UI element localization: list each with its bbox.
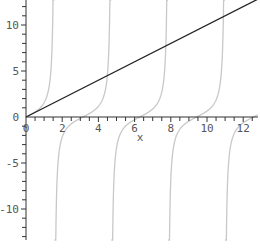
x-tick-label: 0: [23, 122, 30, 135]
x-tick-label: 2: [59, 122, 66, 135]
y-tick-label: 0: [12, 111, 19, 124]
x-tick-label: 4: [95, 122, 102, 135]
tan-curve: [26, 0, 258, 240]
y-tick-label: -10: [0, 203, 19, 216]
plot-area: 024681012 -10-50510 x: [0, 0, 260, 248]
y-axis-ticks: -10-50510: [0, 0, 26, 237]
y-tick-label: 10: [6, 19, 19, 32]
x-axis-label: x: [137, 131, 144, 144]
y-tick-label: -5: [6, 157, 19, 170]
x-tick-label: 8: [167, 122, 174, 135]
identity-line: [26, 0, 258, 117]
x-tick-label: 10: [200, 122, 213, 135]
y-tick-label: 5: [12, 65, 19, 78]
x-tick-label: 12: [237, 122, 250, 135]
